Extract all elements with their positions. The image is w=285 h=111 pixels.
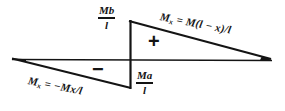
equation-left-relation: = <box>44 77 53 90</box>
positive-sign-icon: + <box>148 31 160 51</box>
label-ma-over-l: Ma l <box>136 70 153 96</box>
label-mb-over-l: Mb l <box>98 5 115 31</box>
baseline-axis <box>12 60 272 61</box>
equation-left-subscript: x <box>36 81 42 91</box>
equation-right-relation: = <box>176 13 185 26</box>
moment-diagram-figure: Mb l Ma l Mx = M(l − x)/l Mx = −Mx/l + − <box>0 0 285 111</box>
label-ma-numerator: Ma <box>136 70 153 81</box>
label-ma-denominator: l <box>136 85 153 96</box>
label-mb-numerator: Mb <box>98 5 115 16</box>
negative-sign-icon: − <box>92 59 104 79</box>
label-mb-denominator: l <box>98 20 115 31</box>
equation-right-subscript: x <box>168 17 174 27</box>
